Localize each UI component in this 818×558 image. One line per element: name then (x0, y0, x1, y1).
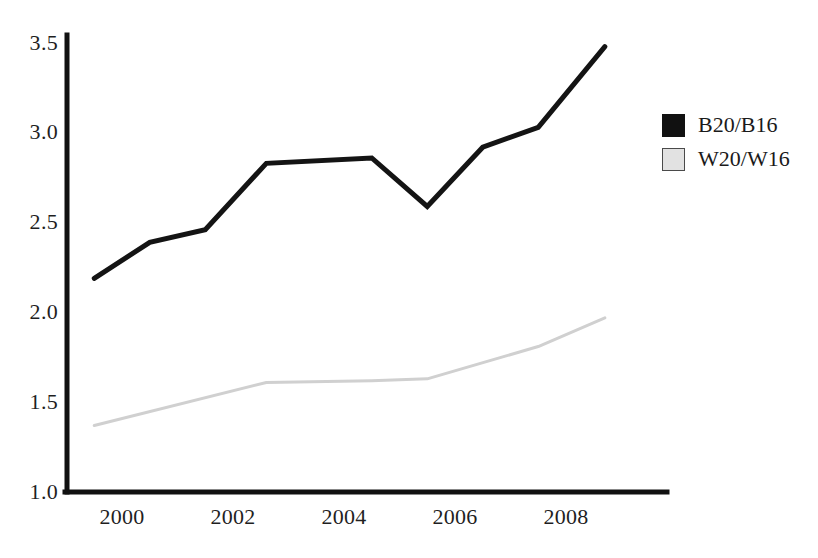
x-tick-label-2000: 2000 (99, 504, 144, 530)
y-tick-label-1-5: 1.5 (6, 389, 58, 415)
y-tick-label-2-0: 2.0 (6, 299, 58, 325)
x-tick-label-2002: 2002 (210, 504, 255, 530)
series-line-w20-w16 (94, 318, 605, 426)
plot-area (0, 0, 818, 558)
x-tick-label-2004: 2004 (321, 504, 366, 530)
y-tick-label-1-0: 1.0 (6, 479, 58, 505)
chart-legend: B20/B16 W20/W16 (662, 108, 812, 176)
y-tick-label-3-5: 3.5 (6, 30, 58, 56)
line-chart: 3.5 3.0 2.5 2.0 1.5 1.0 2000 2002 2004 2… (0, 0, 818, 558)
legend-item-w20-w16: W20/W16 (662, 142, 812, 176)
legend-swatch-black-icon (662, 114, 685, 137)
x-tick-label-2008: 2008 (543, 504, 588, 530)
series-line-b20-b16 (94, 47, 605, 279)
y-tick-label-3-0: 3.0 (6, 119, 58, 145)
legend-label-w20-w16: W20/W16 (698, 146, 790, 172)
legend-item-b20-b16: B20/B16 (662, 108, 812, 142)
legend-label-b20-b16: B20/B16 (698, 112, 777, 138)
x-tick-label-2006: 2006 (432, 504, 477, 530)
y-tick-label-2-5: 2.5 (6, 209, 58, 235)
legend-swatch-gray-icon (662, 148, 685, 171)
